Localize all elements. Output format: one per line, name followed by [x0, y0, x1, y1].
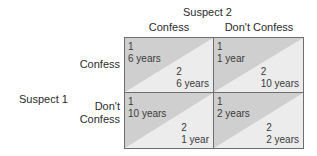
sentence: 1 year — [181, 134, 209, 146]
row-header-line: Don't — [80, 100, 120, 113]
row-player-label: Suspect 1 — [19, 93, 68, 105]
sentence: 1 year — [217, 53, 245, 65]
suspect-2-payoff: 2 6 years — [176, 66, 209, 90]
player-number: 2 — [266, 122, 299, 134]
cell-confess-dont-confess: 1 1 year 2 10 years — [214, 38, 303, 93]
column-player-label: Suspect 2 — [183, 6, 232, 18]
suspect-2-payoff: 2 1 year — [181, 122, 209, 146]
suspect-1-payoff: 1 2 years — [217, 96, 250, 120]
column-header-dont-confess: Don't Confess — [214, 21, 304, 33]
payoff-grid: 1 6 years 2 6 years 1 1 year 2 10 years … — [124, 37, 304, 149]
player-number: 1 — [217, 41, 245, 53]
sentence: 6 years — [128, 53, 161, 65]
row-header-dont-confess: Don't Confess — [80, 100, 120, 126]
player-number: 1 — [128, 96, 166, 108]
suspect-1-payoff: 1 1 year — [217, 41, 245, 65]
sentence: 6 years — [176, 78, 209, 90]
row-header-confess: Confess — [80, 58, 120, 71]
player-number: 2 — [181, 122, 209, 134]
player-number: 1 — [217, 96, 250, 108]
suspect-1-payoff: 1 6 years — [128, 41, 161, 65]
sentence: 10 years — [128, 108, 166, 120]
sentence: 10 years — [261, 78, 299, 90]
sentence: 2 years — [217, 108, 250, 120]
sentence: 2 years — [266, 134, 299, 146]
player-number: 2 — [261, 66, 299, 78]
column-header-confess: Confess — [124, 21, 214, 33]
player-number: 1 — [128, 41, 161, 53]
cell-dont-confess-confess: 1 10 years 2 1 year — [125, 93, 214, 148]
suspect-2-payoff: 2 10 years — [261, 66, 299, 90]
row-header-line: Confess — [80, 58, 120, 71]
suspect-1-payoff: 1 10 years — [128, 96, 166, 120]
cell-dont-confess-dont-confess: 1 2 years 2 2 years — [214, 93, 303, 148]
suspect-2-payoff: 2 2 years — [266, 122, 299, 146]
cell-confess-confess: 1 6 years 2 6 years — [125, 38, 214, 93]
player-number: 2 — [176, 66, 209, 78]
row-header-line: Confess — [80, 113, 120, 126]
